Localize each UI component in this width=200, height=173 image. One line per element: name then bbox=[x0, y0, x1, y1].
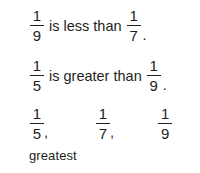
list-separator: , bbox=[44, 125, 48, 140]
fraction-one-ninth: 1 9 bbox=[158, 106, 172, 141]
fraction-bar bbox=[96, 123, 110, 125]
fraction-numerator: 1 bbox=[97, 106, 109, 121]
fraction-denominator: 9 bbox=[148, 78, 160, 93]
fraction-numerator: 1 bbox=[148, 58, 160, 73]
fraction-numerator: 1 bbox=[31, 8, 43, 23]
statement-row-2: 1 5 is greater than 1 9 . bbox=[29, 58, 166, 93]
fraction-numerator: 1 bbox=[127, 8, 139, 23]
fraction-numerator: 1 bbox=[31, 58, 43, 73]
fraction-bar bbox=[30, 75, 44, 77]
fraction-bar bbox=[30, 25, 44, 27]
fraction-denominator: 9 bbox=[31, 28, 43, 43]
fraction-bar bbox=[158, 123, 172, 125]
sentence-period: . bbox=[143, 28, 147, 43]
fraction-one-fifth: 1 5 bbox=[30, 106, 44, 141]
fraction-bar bbox=[127, 25, 141, 27]
fraction-denominator: 5 bbox=[31, 78, 43, 93]
fraction-denominator: 5 bbox=[31, 126, 43, 141]
fraction-one-ninth: 1 9 bbox=[30, 8, 44, 43]
greatest-label: greatest bbox=[29, 148, 77, 163]
fraction-denominator: 7 bbox=[127, 28, 139, 43]
worksheet-page: 1 9 is less than 1 7 . 1 5 is greater th… bbox=[0, 0, 200, 173]
fraction-one-seventh: 1 7 bbox=[96, 106, 110, 141]
fraction-numerator: 1 bbox=[159, 106, 171, 121]
statement-row-1: 1 9 is less than 1 7 . bbox=[29, 8, 146, 43]
fraction-one-ninth: 1 9 bbox=[147, 58, 161, 93]
relation-text-greater-than: is greater than bbox=[49, 69, 142, 84]
fraction-denominator: 9 bbox=[159, 126, 171, 141]
fraction-numerator: 1 bbox=[31, 106, 43, 121]
fraction-one-fifth: 1 5 bbox=[30, 58, 44, 93]
fraction-one-seventh: 1 7 bbox=[127, 8, 141, 43]
fraction-bar bbox=[30, 123, 44, 125]
list-item: 1 7 , bbox=[95, 106, 115, 141]
list-item: 1 9 bbox=[157, 106, 173, 141]
fraction-denominator: 7 bbox=[97, 126, 109, 141]
list-separator: , bbox=[110, 125, 114, 140]
list-item: 1 5 , bbox=[29, 106, 49, 141]
sentence-period: . bbox=[163, 78, 167, 93]
ordered-fraction-list: 1 5 , 1 7 , 1 9 bbox=[29, 106, 173, 141]
relation-text-less-than: is less than bbox=[49, 19, 122, 34]
fraction-bar bbox=[147, 75, 161, 77]
